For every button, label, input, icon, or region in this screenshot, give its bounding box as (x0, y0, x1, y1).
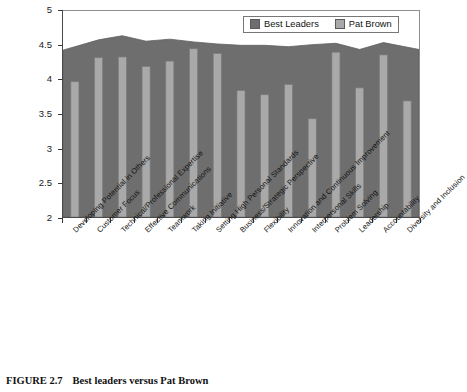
figure-caption: FIGURE 2.7Best leaders versus Pat Brown (6, 375, 208, 386)
figure-caption-text: Best leaders versus Pat Brown (73, 375, 209, 386)
legend-item-pat-brown: Pat Brown (335, 19, 392, 29)
chart-legend: Best Leaders Pat Brown (243, 16, 399, 33)
legend-swatch-icon (335, 19, 345, 29)
legend-item-best-leaders: Best Leaders (250, 19, 319, 29)
legend-label: Best Leaders (264, 19, 319, 29)
figure-caption-label: FIGURE 2.7 (6, 375, 63, 386)
legend-label: Pat Brown (349, 19, 392, 29)
legend-swatch-icon (250, 19, 260, 29)
